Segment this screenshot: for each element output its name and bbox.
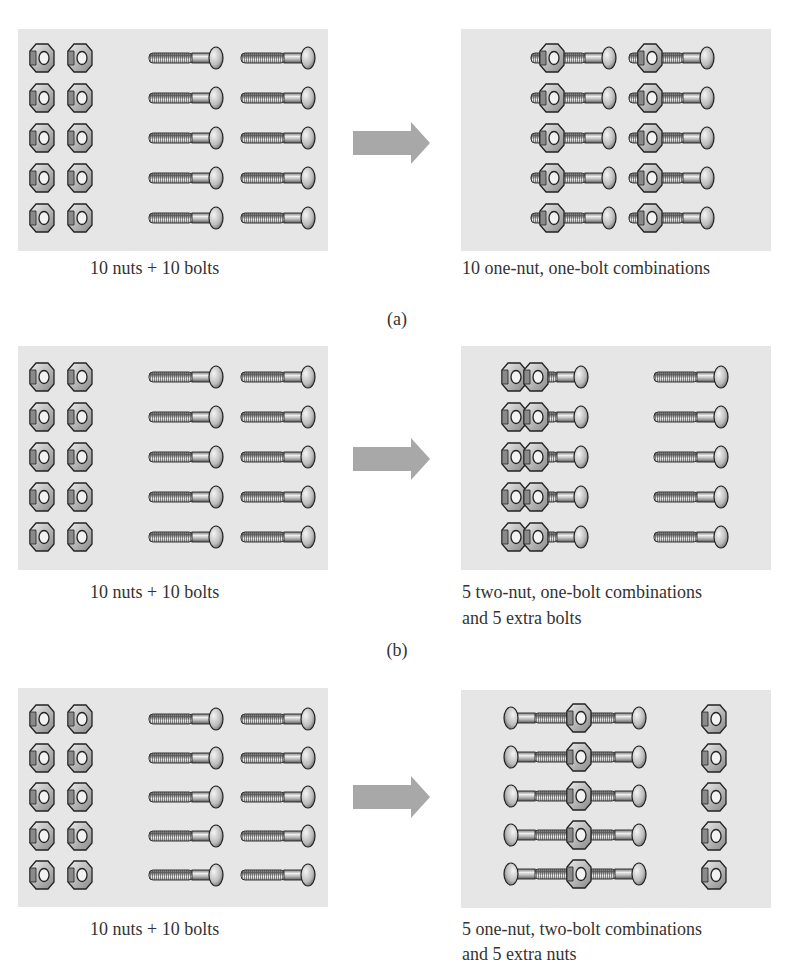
nuts-and-bolts-illustration (18, 29, 328, 251)
panel-c-before (18, 688, 328, 907)
hex-nut-icon (30, 44, 92, 232)
caption-c-left: 10 nuts + 10 bolts (90, 916, 219, 943)
caption-c-right-line1: 5 one-nut, two-bolt combinations (462, 916, 702, 943)
nuts-and-bolts-illustration (18, 688, 328, 907)
one-nut-one-bolt-combinations (461, 29, 771, 251)
one-nut-two-bolt-combinations-and-extra-nuts (461, 690, 771, 908)
bolt-icon (149, 366, 315, 548)
caption-a-right: 10 one-nut, one-bolt combinations (462, 255, 710, 282)
bolt-icon (149, 47, 315, 229)
two-nut-one-bolt-combinations-and-extra-bolts (461, 346, 771, 570)
right-arrow-icon (353, 438, 431, 480)
subfigure-label-b: (b) (367, 640, 427, 661)
panel-b-before (18, 346, 328, 570)
right-arrow-icon (353, 122, 431, 164)
caption-b-right-line1: 5 two-nut, one-bolt combinations (462, 579, 702, 606)
caption-a-left: 10 nuts + 10 bolts (90, 255, 219, 282)
right-arrow-icon (353, 776, 431, 818)
bolt-icon (654, 366, 728, 548)
hex-nut-icon (30, 363, 92, 551)
hex-nut-icon (702, 705, 726, 889)
bolt-icon (149, 708, 315, 886)
panel-b-after (461, 346, 771, 570)
panel-a-before (18, 29, 328, 251)
caption-b-left: 10 nuts + 10 bolts (90, 579, 219, 606)
panel-a-after (461, 29, 771, 251)
subfigure-label-a: (a) (367, 309, 427, 330)
one-nut-two-bolt-combination (504, 704, 646, 888)
caption-c-right-line2: and 5 extra nuts (462, 941, 576, 968)
hex-nut-icon (30, 705, 92, 889)
two-nut-one-bolt-combination (502, 363, 588, 551)
caption-b-right-line2: and 5 extra bolts (462, 605, 581, 632)
panel-c-after (461, 690, 771, 908)
nuts-and-bolts-illustration (18, 346, 328, 570)
